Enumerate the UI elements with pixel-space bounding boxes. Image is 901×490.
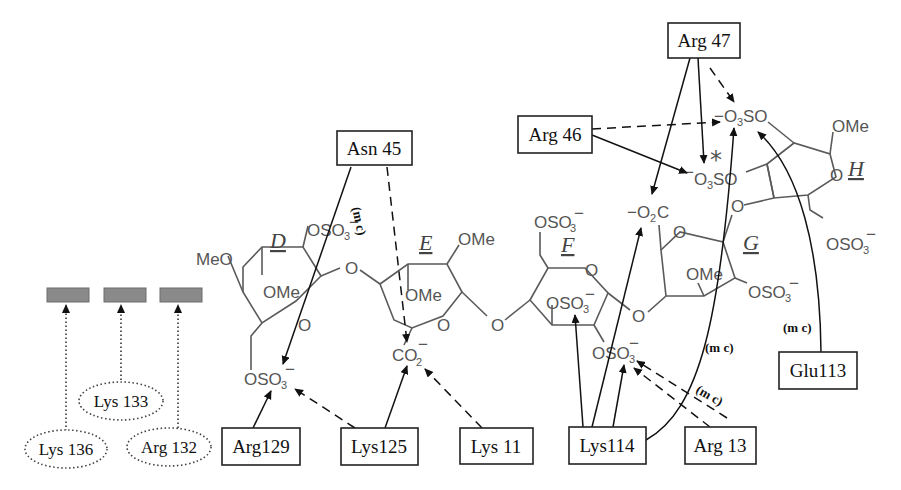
svg-text:2: 2 [416,356,422,368]
residue-arg46[interactable]: Arg 46 [518,116,592,153]
asterisk-marker: * [710,146,722,174]
residue-label: Lys 11 [471,436,522,457]
oso3-f-mid: OSO 3 − [546,285,595,315]
ring-label-e: E [418,230,433,255]
svg-text:−: − [789,274,799,293]
ring-f: O OSO 3 − OSO 3 − OSO 3 − F [530,204,639,365]
svg-text:SO: SO [743,107,768,126]
residue-label: Arg 13 [694,435,747,456]
svg-text:O: O [694,170,707,189]
residue-lys11[interactable]: Lys 11 [460,428,533,464]
svg-text:3: 3 [583,303,589,315]
oso3-f-top: OSO 3 − [534,204,584,234]
svg-text:−: − [627,203,637,222]
svg-text:−: − [629,334,639,353]
residue-lys136[interactable]: Lys 136 [25,430,107,468]
residue-asn45[interactable]: Asn 45 [337,131,412,165]
residue-lys125[interactable]: Lys125 [341,428,418,465]
svg-text:−: − [285,360,295,379]
mc-label-glu113: (m c) [783,320,812,335]
o-fg-link: O [632,307,645,326]
o-e-ring: O [437,316,450,335]
ring-label-g: G [743,230,759,255]
o-de-link: O [345,259,358,278]
oso3-f-bottom: OSO 3 − [592,334,639,365]
o-d-ring: O [298,316,311,335]
residue-label: Asn 45 [347,138,401,159]
gray-bars [47,288,202,302]
o2c-g: − O 2 C [627,203,669,224]
residue-lys133[interactable]: Lys 133 [79,382,163,420]
ring-label-d: D [269,228,286,253]
ome-h: OMe [832,117,869,136]
residue-lys114[interactable]: Lys114 [569,427,646,464]
residue-arg47[interactable]: Arg 47 [668,23,740,58]
svg-text:3: 3 [785,292,791,304]
svg-text:−: − [714,107,724,126]
ring-h: O OMe − O 3 SO − O 3 SO * OSO 3 − H [684,107,876,256]
residue-arg132[interactable]: Arg 132 [127,428,211,466]
svg-text:O: O [637,203,650,222]
o-f-ring: O [585,261,598,280]
o-g-ring: O [673,223,686,242]
oso3-h-bottom: OSO 3 − [826,225,876,256]
svg-text:OSO: OSO [244,370,282,389]
residue-label: Arg 47 [678,30,731,51]
gray-bar-2 [104,288,146,302]
svg-text:3: 3 [863,244,869,256]
residue-arg13[interactable]: Arg 13 [685,427,756,464]
residue-label: Arg 46 [529,124,582,145]
o-ef-link: O [491,316,504,335]
svg-text:OSO: OSO [826,235,864,254]
svg-text:C: C [657,203,669,222]
ring-label-h: H [847,156,865,181]
gray-bar-3 [160,288,202,302]
svg-text:OSO: OSO [534,213,572,232]
heparin-binding-diagram: MeO OMe O OSO 3 − OSO 3 − D O OMe OMe O … [0,0,901,490]
o3so-h-top: − O 3 SO [714,107,768,128]
residue-glu113[interactable]: Glu113 [779,352,857,389]
o-h-ring: O [830,166,843,185]
svg-text:O: O [724,107,737,126]
meo-d: MeO [196,250,233,269]
svg-text:OSO: OSO [748,283,786,302]
svg-text:2: 2 [650,212,656,224]
svg-text:OSO: OSO [307,221,345,240]
svg-text:−: − [866,225,876,244]
svg-text:OSO: OSO [546,294,584,313]
residue-label: Lys125 [351,436,407,457]
svg-text:−: − [585,285,595,304]
ome-e-ring: OMe [405,286,442,305]
svg-text:3: 3 [281,379,287,391]
ring-label-f: F [560,232,575,257]
ring-d: MeO OMe O OSO 3 − OSO 3 − D [196,213,359,391]
gray-bar-1 [47,288,89,302]
ome-d: OMe [263,283,300,302]
svg-text:3: 3 [629,353,635,365]
residue-label: Arg129 [232,436,290,457]
residue-label: Lys 133 [94,392,148,411]
ome-e-top: OMe [458,230,495,249]
residue-arg129[interactable]: Arg129 [222,428,300,465]
ring-g: O − O 2 C OMe OSO 3 − G [627,203,799,304]
residue-label: Lys 136 [39,440,93,459]
svg-text:OSO: OSO [592,344,630,363]
mc-label-arg13: (m c) [694,382,726,409]
oso3-g: OSO 3 − [748,274,799,304]
residue-label: Arg 132 [141,438,197,457]
svg-text:−: − [418,335,428,354]
svg-text:CO: CO [392,346,418,365]
o-gh-link: O [731,197,744,216]
residue-label: Lys114 [579,435,635,456]
ring-e: OMe OMe O CO 2 − E [380,230,495,368]
co2-e: CO 2 − [392,335,428,368]
mc-label-lys114: (m c) [705,340,734,355]
residue-label: Glu113 [790,360,846,381]
svg-text:−: − [574,204,584,223]
